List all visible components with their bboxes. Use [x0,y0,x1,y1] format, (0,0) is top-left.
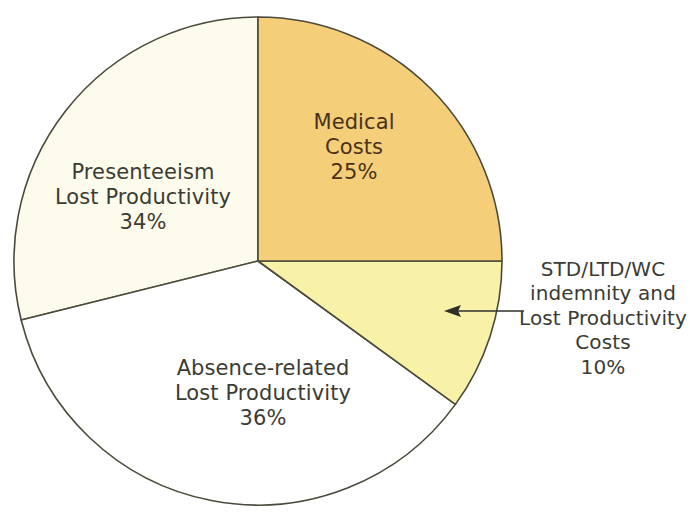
slice-value-presenteeism: 34% [38,210,248,235]
slice-label-std-line3: Lost Productivity [519,306,687,330]
slice-label-std: STD/LTD/WC indemnity and Lost Productivi… [519,257,687,379]
slice-label-presenteeism: Presenteeism Lost Productivity 34% [38,160,248,234]
slice-label-medical-line2: Costs [289,135,419,160]
slice-label-presenteeism-line1: Presenteeism [38,160,248,185]
slice-label-std-line2: indemnity and [519,281,687,305]
slice-value-absence: 36% [158,406,368,431]
slice-label-std-line1: STD/LTD/WC [519,257,687,281]
slice-label-absence: Absence-related Lost Productivity 36% [158,356,368,430]
slice-label-medical: Medical Costs 25% [289,110,419,184]
pie-chart: Medical Costs 25% Presenteeism Lost Prod… [0,0,690,513]
slice-label-presenteeism-line2: Lost Productivity [38,185,248,210]
slice-value-medical: 25% [289,160,419,185]
slice-label-medical-line1: Medical [289,110,419,135]
slice-label-std-line4: Costs [519,330,687,354]
slice-label-absence-line1: Absence-related [158,356,368,381]
slice-value-std: 10% [519,355,687,379]
slice-label-absence-line2: Lost Productivity [158,381,368,406]
